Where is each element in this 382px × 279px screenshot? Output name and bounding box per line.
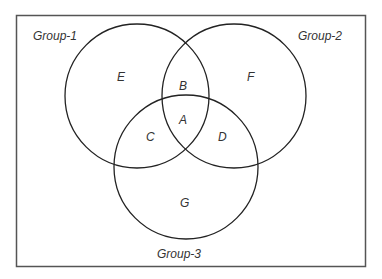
region-e-label: E [117, 70, 126, 84]
group-2-circle [162, 24, 306, 168]
group-2-label: Group-2 [298, 29, 342, 43]
region-c-label: C [146, 130, 155, 144]
region-d-label: D [218, 130, 227, 144]
region-a-label: A [178, 113, 187, 127]
region-g-label: G [180, 196, 189, 210]
region-f-label: F [247, 70, 255, 84]
group-1-label: Group-1 [33, 29, 77, 43]
region-b-label: B [179, 79, 187, 93]
group-3-label: Group-3 [157, 247, 201, 261]
group-1-circle [65, 24, 209, 168]
venn-diagram: Group-1 Group-2 Group-3 A B C D E F G [0, 0, 382, 279]
frame [17, 16, 366, 267]
